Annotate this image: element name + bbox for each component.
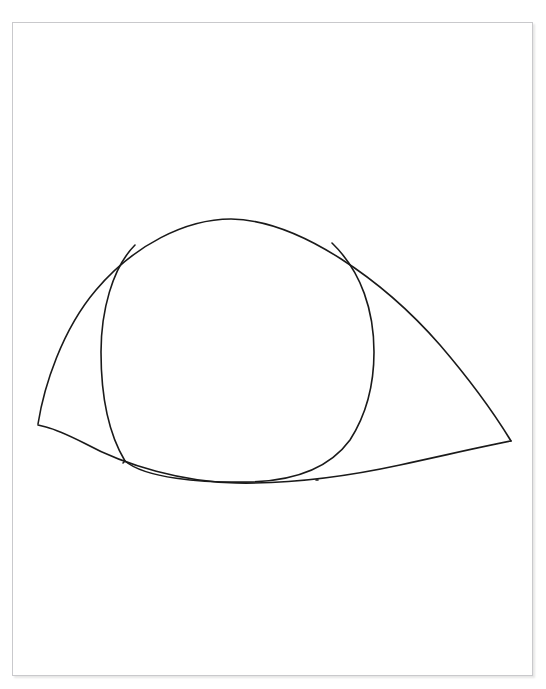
- clipped-header-text: — —— — —— ——— —— —— — ——: [0, 0, 546, 4]
- scanned-page: — —— — —— ——— —— —— — ——: [0, 0, 546, 689]
- header-strip: — —— — —— ——— —— —— — ——: [0, 0, 546, 13]
- drawing-sheet: [12, 22, 533, 676]
